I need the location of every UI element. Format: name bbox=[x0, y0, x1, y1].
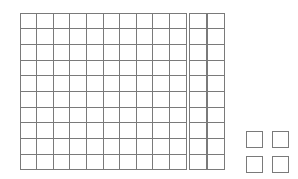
unit-cell bbox=[53, 122, 71, 139]
unit-cell bbox=[119, 60, 137, 77]
unit-cell bbox=[119, 28, 137, 45]
unit-cell bbox=[53, 13, 71, 30]
tens-rod-block bbox=[207, 13, 224, 170]
unit-cell bbox=[207, 107, 225, 124]
unit-cell bbox=[20, 75, 38, 92]
unit-cell bbox=[152, 13, 170, 30]
unit-cell bbox=[69, 44, 87, 61]
unit-cell bbox=[86, 75, 104, 92]
unit-cell bbox=[189, 122, 207, 139]
unit-cell bbox=[189, 75, 207, 92]
unit-cell bbox=[20, 107, 38, 124]
hundreds-flat-block bbox=[20, 13, 186, 170]
unit-cell bbox=[119, 13, 137, 30]
unit-cell bbox=[36, 75, 54, 92]
unit-cell bbox=[152, 154, 170, 171]
ones-unit-block bbox=[272, 131, 289, 148]
unit-cell bbox=[86, 60, 104, 77]
unit-cell bbox=[169, 91, 187, 108]
unit-cell bbox=[36, 107, 54, 124]
unit-cell bbox=[36, 44, 54, 61]
unit-cell bbox=[136, 13, 154, 30]
base-ten-blocks-diagram bbox=[0, 0, 298, 179]
unit-cell bbox=[69, 60, 87, 77]
unit-cell bbox=[169, 44, 187, 61]
unit-cell bbox=[152, 60, 170, 77]
ones-unit-block bbox=[246, 131, 263, 148]
unit-cell bbox=[36, 138, 54, 155]
unit-cell bbox=[119, 138, 137, 155]
unit-cell bbox=[169, 138, 187, 155]
unit-cell bbox=[207, 154, 225, 171]
unit-cell bbox=[119, 91, 137, 108]
unit-cell bbox=[152, 107, 170, 124]
unit-cell bbox=[86, 13, 104, 30]
unit-cell bbox=[69, 107, 87, 124]
unit-cell bbox=[69, 13, 87, 30]
unit-cell bbox=[20, 154, 38, 171]
unit-cell bbox=[169, 154, 187, 171]
unit-cell bbox=[189, 44, 207, 61]
unit-cell bbox=[36, 13, 54, 30]
unit-cell bbox=[53, 28, 71, 45]
unit-cell bbox=[20, 44, 38, 61]
unit-cell bbox=[119, 122, 137, 139]
unit-cell bbox=[152, 75, 170, 92]
unit-cell bbox=[36, 60, 54, 77]
unit-cell bbox=[69, 122, 87, 139]
unit-cell bbox=[36, 122, 54, 139]
unit-cell bbox=[136, 107, 154, 124]
unit-cell bbox=[36, 28, 54, 45]
unit-cell bbox=[136, 75, 154, 92]
unit-cell bbox=[136, 138, 154, 155]
unit-cell bbox=[53, 154, 71, 171]
unit-cell bbox=[103, 75, 121, 92]
unit-cell bbox=[86, 138, 104, 155]
unit-cell bbox=[36, 91, 54, 108]
unit-cell bbox=[136, 122, 154, 139]
unit-cell bbox=[189, 91, 207, 108]
unit-cell bbox=[86, 28, 104, 45]
unit-cell bbox=[207, 75, 225, 92]
unit-cell bbox=[53, 91, 71, 108]
unit-cell bbox=[86, 154, 104, 171]
unit-cell bbox=[207, 28, 225, 45]
unit-cell bbox=[103, 44, 121, 61]
ones-units-group bbox=[246, 131, 289, 173]
unit-cell bbox=[103, 91, 121, 108]
unit-cell bbox=[207, 138, 225, 155]
unit-cell bbox=[20, 60, 38, 77]
unit-cell bbox=[136, 44, 154, 61]
unit-cell bbox=[189, 154, 207, 171]
unit-cell bbox=[189, 28, 207, 45]
unit-cell bbox=[53, 138, 71, 155]
unit-cell bbox=[169, 60, 187, 77]
unit-cell bbox=[20, 28, 38, 45]
unit-cell bbox=[103, 154, 121, 171]
unit-cell bbox=[169, 13, 187, 30]
unit-cell bbox=[207, 91, 225, 108]
unit-cell bbox=[207, 44, 225, 61]
unit-cell bbox=[69, 154, 87, 171]
unit-cell bbox=[152, 122, 170, 139]
unit-cell bbox=[207, 122, 225, 139]
unit-cell bbox=[20, 91, 38, 108]
unit-cell bbox=[119, 44, 137, 61]
unit-cell bbox=[189, 13, 207, 30]
unit-cell bbox=[189, 60, 207, 77]
unit-cell bbox=[169, 107, 187, 124]
unit-cell bbox=[136, 60, 154, 77]
unit-cell bbox=[20, 13, 38, 30]
unit-cell bbox=[103, 122, 121, 139]
unit-cell bbox=[119, 75, 137, 92]
unit-cell bbox=[20, 122, 38, 139]
unit-cell bbox=[103, 138, 121, 155]
unit-cell bbox=[136, 91, 154, 108]
unit-cell bbox=[152, 44, 170, 61]
unit-cell bbox=[69, 75, 87, 92]
ones-unit-block bbox=[246, 156, 263, 173]
unit-cell bbox=[119, 107, 137, 124]
unit-cell bbox=[152, 138, 170, 155]
tens-rod-block bbox=[189, 13, 206, 170]
unit-cell bbox=[169, 75, 187, 92]
